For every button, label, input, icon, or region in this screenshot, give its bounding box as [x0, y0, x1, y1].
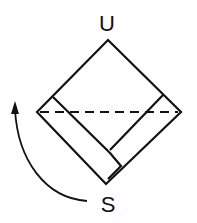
label-top: U: [99, 11, 115, 36]
label-bottom: S: [101, 192, 116, 217]
arrow-head-icon: [11, 101, 19, 114]
folding-diagram: U S: [0, 0, 197, 223]
right-inner-line: [110, 95, 163, 150]
rotation-arrow: [15, 110, 87, 201]
